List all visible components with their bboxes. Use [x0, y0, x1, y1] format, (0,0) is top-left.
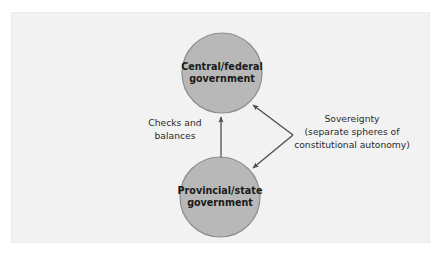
connector-sovereignty: [253, 105, 293, 168]
label-sovereignty: Sovereignty (separate spheres of constit…: [294, 113, 410, 150]
label-checks-and-balances: Checks and balances: [148, 117, 201, 141]
sovereignty-line3: constitutional autonomy): [294, 139, 410, 150]
sovereignty-line2: (separate spheres of: [305, 126, 401, 137]
sovereignty-arrow-to-provincial: [253, 135, 293, 168]
diagram-canvas: Central/federal government Provincial/st…: [0, 0, 442, 263]
federalism-diagram: Central/federal government Provincial/st…: [0, 0, 442, 263]
central-government-label-line2: government: [189, 73, 255, 84]
node-central-federal-government: Central/federal government: [181, 33, 263, 113]
checks-and-balances-line1: Checks and: [148, 117, 201, 128]
central-government-label-line1: Central/federal: [181, 61, 263, 72]
sovereignty-arrow-to-central: [253, 105, 293, 135]
checks-and-balances-line2: balances: [155, 130, 196, 141]
provincial-government-label-line2: government: [187, 197, 253, 208]
provincial-government-label-line1: Provincial/state: [178, 185, 263, 196]
node-provincial-state-government: Provincial/state government: [178, 157, 263, 237]
sovereignty-line1: Sovereignty: [324, 113, 380, 124]
